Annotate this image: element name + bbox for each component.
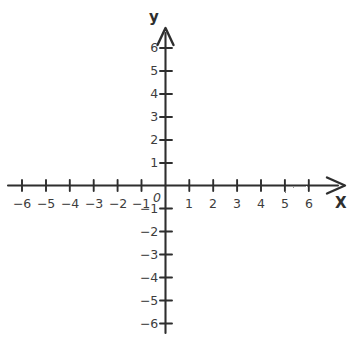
x-tick-label: −5 bbox=[37, 198, 55, 211]
y-tick-label: 6 bbox=[144, 42, 158, 55]
x-tick-label: 4 bbox=[257, 198, 265, 211]
x-tick-label: 1 bbox=[185, 198, 193, 211]
y-tick-label: −2 bbox=[136, 226, 158, 239]
axes-drawing bbox=[0, 0, 355, 341]
x-tick-label: −2 bbox=[109, 198, 127, 211]
y-tick-label: −5 bbox=[136, 295, 158, 308]
x-tick-label: −3 bbox=[85, 198, 103, 211]
x-tick-label: 6 bbox=[305, 198, 313, 211]
y-tick-label: 1 bbox=[144, 157, 158, 170]
y-axis-label: y bbox=[149, 10, 159, 25]
y-tick-label: −3 bbox=[136, 249, 158, 262]
y-tick-label: 4 bbox=[144, 88, 158, 101]
y-tick-label: 5 bbox=[144, 65, 158, 78]
x-axis-label: X bbox=[335, 196, 347, 211]
y-tick-label: −6 bbox=[136, 318, 158, 331]
y-tick-label: 2 bbox=[144, 134, 158, 147]
x-tick-label: 2 bbox=[209, 198, 217, 211]
x-tick-label: 5 bbox=[281, 198, 289, 211]
y-tick-label: −4 bbox=[136, 272, 158, 285]
y-tick-label: −1 bbox=[136, 203, 158, 216]
x-tick-label: −6 bbox=[13, 198, 31, 211]
x-tick-label: −4 bbox=[61, 198, 79, 211]
x-tick-label: 3 bbox=[233, 198, 241, 211]
y-tick-label: 3 bbox=[144, 111, 158, 124]
coordinate-plane-figure: y X 0 −6 −5 −4 −3 −2 −1 1 2 3 4 5 6 6 5 … bbox=[0, 0, 355, 341]
